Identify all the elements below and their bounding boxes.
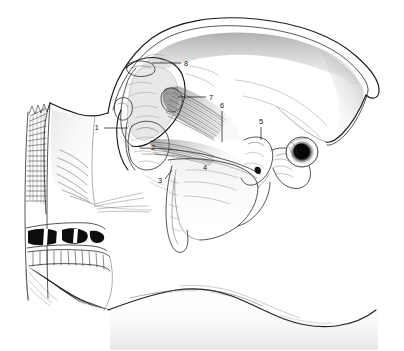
label-7[interactable]: 7 — [209, 93, 213, 102]
label-4[interactable]: 4 — [203, 163, 207, 172]
figure-canvas: 1 2 3 4 5 6 7 8 — [0, 0, 404, 351]
label-6[interactable]: 6 — [220, 101, 224, 110]
external-auditory-meatus — [286, 137, 318, 167]
label-3[interactable]: 3 — [158, 176, 162, 185]
label-5[interactable]: 5 — [259, 117, 263, 126]
label-8[interactable]: 8 — [184, 59, 188, 68]
label-2[interactable]: 2 — [151, 143, 155, 152]
anatomical-figure: 1 2 3 4 5 6 7 8 — [0, 0, 404, 351]
label-1[interactable]: 1 — [95, 123, 99, 132]
